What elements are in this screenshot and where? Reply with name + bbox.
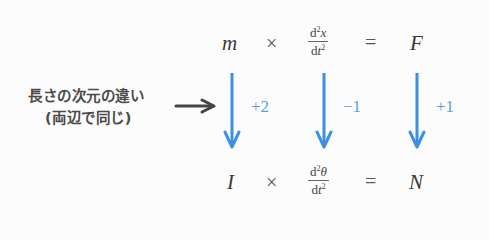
down-arrow-icon	[222, 72, 242, 150]
theta-variable: θ	[321, 164, 327, 179]
equals-operator: =	[365, 171, 376, 191]
annotation-line2: (両辺で同じ)	[45, 111, 132, 126]
mass-symbol: m	[222, 33, 237, 54]
delta-label: +1	[436, 98, 454, 115]
acceleration-fraction: d2x dt2	[308, 26, 328, 57]
times-operator: ×	[266, 172, 277, 192]
delta-label: −1	[343, 98, 361, 115]
x-variable: x	[321, 25, 327, 40]
torque-symbol: N	[409, 172, 423, 193]
exponent: 2	[321, 43, 325, 52]
moment-of-inertia-symbol: I	[227, 172, 234, 193]
force-symbol: F	[410, 33, 423, 54]
times-operator: ×	[266, 33, 277, 53]
delta-label: +2	[251, 98, 269, 115]
down-arrow-icon	[407, 72, 427, 150]
exponent: 2	[322, 182, 326, 191]
angular-acceleration-fraction: d2θ dt2	[308, 165, 329, 196]
equals-operator: =	[365, 32, 376, 52]
annotation-line1: 長さの次元の違い	[28, 89, 144, 104]
down-arrow-icon	[314, 72, 334, 150]
pointer-arrow-icon	[174, 97, 218, 115]
